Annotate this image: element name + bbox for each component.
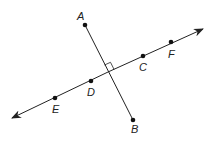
point-b — [131, 118, 136, 123]
point-label-e: E — [52, 103, 60, 115]
point-d — [89, 79, 94, 84]
geometry-diagram: ABCDEF — [0, 0, 211, 144]
segment-ab — [85, 25, 133, 120]
point-label-a: A — [76, 10, 84, 22]
line-ef — [108, 29, 203, 72]
point-label-f: F — [168, 48, 176, 60]
point-f — [169, 40, 174, 45]
point-a — [83, 23, 88, 28]
point-e — [53, 96, 58, 101]
point-label-d: D — [87, 86, 95, 98]
point-label-b: B — [131, 123, 138, 135]
point-label-c: C — [139, 61, 147, 73]
point-c — [141, 54, 146, 59]
